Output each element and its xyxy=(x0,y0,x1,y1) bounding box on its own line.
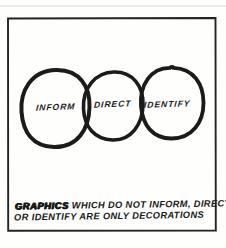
caption: GRAPHICSWHICH DO NOT INFORM, DIRECT, OR … xyxy=(15,199,217,224)
circle-label-direct: DIRECT xyxy=(94,98,132,109)
circle-label-identify: IDENTIFY xyxy=(144,98,191,110)
sketch-panel: INFORM DIRECT IDENTIFY GRAPHICSWHICH DO … xyxy=(0,0,226,248)
caption-line-1-rest: WHICH DO NOT INFORM, DIRECT, xyxy=(72,198,226,210)
caption-emphasis-word: GRAPHICS xyxy=(15,201,69,212)
circle-label-inform: INFORM xyxy=(36,101,76,112)
